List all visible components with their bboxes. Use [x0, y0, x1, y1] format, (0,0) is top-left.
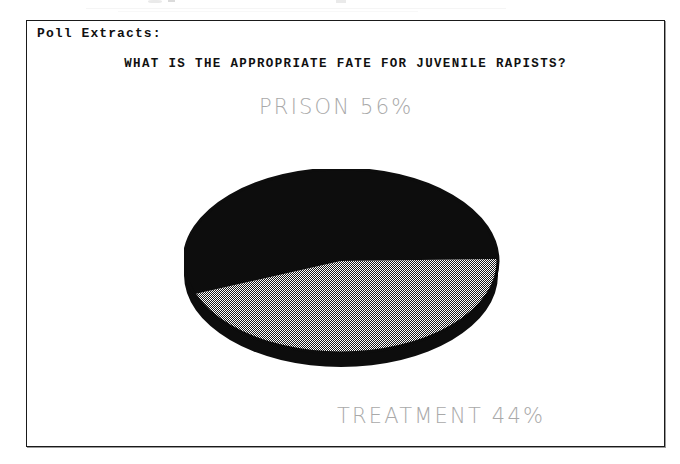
- chart-title: WHAT IS THE APPROPRIATE FATE FOR JUVENIL…: [27, 57, 664, 71]
- scan-speck: [148, 0, 162, 3]
- poll-extracts-panel: Poll Extracts: WHAT IS THE APPROPRIATE F…: [26, 20, 665, 447]
- scan-artifacts: [0, 0, 680, 14]
- scan-speck: [168, 0, 175, 2]
- scan-line: [86, 8, 506, 9]
- pie-label-treatment: TREATMENT 44%: [337, 404, 545, 428]
- scan-line: [118, 11, 418, 12]
- pie-chart-svg: [184, 169, 500, 371]
- pie-chart: [184, 169, 500, 371]
- scan-speck: [336, 0, 346, 3]
- section-label: Poll Extracts:: [37, 26, 162, 41]
- pie-label-prison: PRISON 56%: [259, 95, 413, 119]
